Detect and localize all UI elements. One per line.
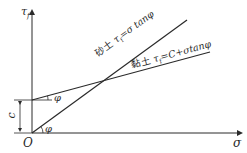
y-axis-label: τf [21,6,30,20]
intercept-c-label: c [6,112,17,118]
origin-label: O [23,137,33,149]
clay-angle-arc [48,96,49,100]
diagram-canvas [0,0,247,153]
sand-angle-arc [41,127,43,134]
tau-subscript: f [27,12,30,20]
clay-angle-label: φ [54,93,61,103]
x-axis-label: σ [233,137,241,149]
sand-angle-label: φ [45,124,52,134]
